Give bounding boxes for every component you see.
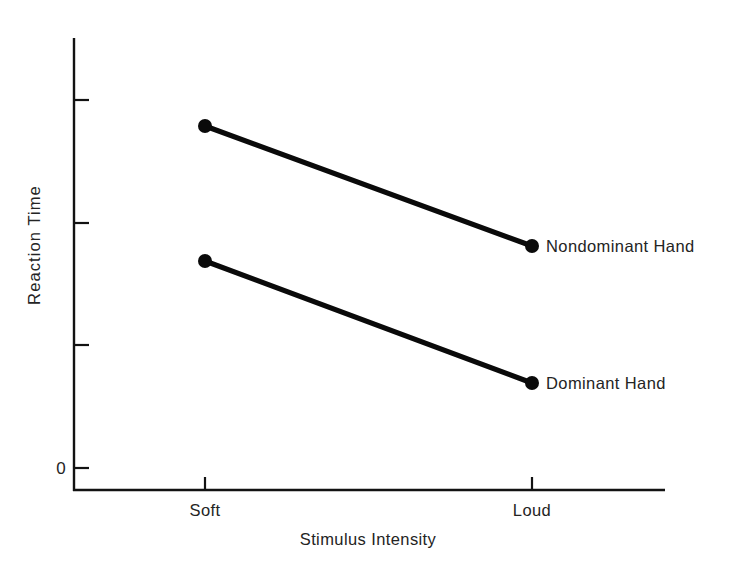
- line-chart: 0 Reaction Time Soft Loud Stimulus Inten…: [0, 0, 732, 580]
- y-axis-title: Reaction Time: [25, 185, 43, 305]
- data-point-dominant-loud: [525, 376, 539, 390]
- series-line-nondominant: [205, 126, 532, 246]
- x-tick-label-soft: Soft: [190, 501, 221, 519]
- y-axis-zero-label: 0: [56, 459, 66, 478]
- data-point-dominant-soft: [198, 254, 212, 268]
- data-point-nondominant-soft: [198, 119, 212, 133]
- x-axis-title: Stimulus Intensity: [300, 530, 437, 548]
- chart-canvas: 0 Reaction Time Soft Loud Stimulus Inten…: [0, 0, 732, 580]
- series-label-dominant: Dominant Hand: [546, 374, 666, 392]
- x-tick-label-loud: Loud: [513, 501, 551, 519]
- series-label-nondominant: Nondominant Hand: [546, 237, 695, 255]
- series-line-dominant: [205, 261, 532, 383]
- data-point-nondominant-loud: [525, 239, 539, 253]
